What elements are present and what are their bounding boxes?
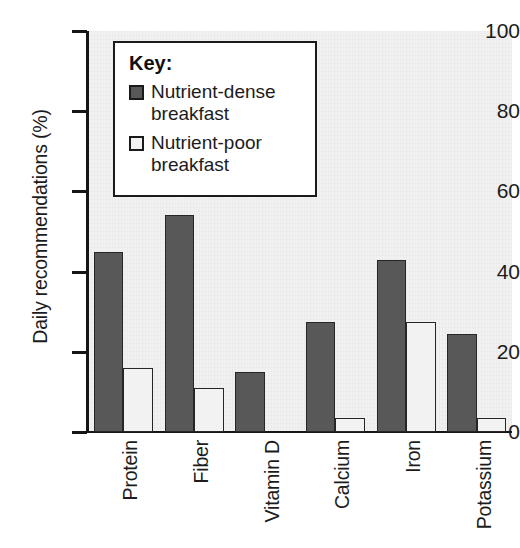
- legend-item-nutrient-dense: Nutrient-dense breakfast: [129, 81, 315, 125]
- bar-chart-figure: Daily recommendations (%) 020406080100 P…: [0, 0, 520, 548]
- y-axis-tick-label: 40: [454, 261, 520, 282]
- bar-nutrient-dense-iron: [377, 260, 407, 432]
- y-axis-tick: [72, 30, 87, 33]
- dark-gray-swatch-icon: [129, 85, 144, 100]
- white-swatch-icon: [129, 136, 144, 151]
- legend-label-line2: breakfast: [151, 103, 229, 124]
- x-axis-label-iron: Iron: [402, 440, 425, 548]
- bar-nutrient-poor-protein: [123, 368, 153, 432]
- y-axis-tick-label: 100: [454, 20, 520, 41]
- x-axis-label-fiber: Fiber: [190, 440, 213, 548]
- x-axis-label-vitamin-d: Vitamin D: [261, 440, 284, 548]
- bar-nutrient-dense-vitamin-d: [235, 372, 265, 432]
- legend-label-line1: Nutrient-poor: [151, 132, 262, 153]
- y-axis-tick-label: 60: [454, 180, 520, 201]
- legend-label-line2: breakfast: [151, 154, 229, 175]
- x-axis-label-protein: Protein: [119, 440, 142, 548]
- x-axis-label-potassium: Potassium: [473, 440, 496, 548]
- y-axis-tick-label: 80: [454, 100, 520, 121]
- legend-item-label: Nutrient-poor breakfast: [151, 132, 262, 176]
- bar-nutrient-poor-potassium: [477, 418, 507, 432]
- bar-nutrient-poor-calcium: [335, 418, 365, 432]
- bar-nutrient-dense-fiber: [165, 215, 195, 432]
- bar-nutrient-poor-fiber: [194, 388, 224, 432]
- bar-nutrient-dense-calcium: [306, 322, 336, 432]
- y-axis-tick: [72, 431, 87, 434]
- bar-nutrient-poor-iron: [406, 322, 436, 432]
- x-axis-label-calcium: Calcium: [331, 440, 354, 548]
- y-axis-tick: [72, 351, 87, 354]
- legend-item-label: Nutrient-dense breakfast: [151, 81, 276, 125]
- y-axis-tick: [72, 271, 87, 274]
- y-axis-tick: [72, 110, 87, 113]
- bar-nutrient-dense-protein: [94, 252, 124, 432]
- y-axis-title: Daily recommendations (%): [29, 17, 52, 437]
- legend-title: Key:: [129, 52, 315, 74]
- bar-nutrient-dense-potassium: [447, 334, 477, 432]
- legend-box: Key: Nutrient-dense breakfast Nutrient-p…: [113, 41, 317, 197]
- legend-label-line1: Nutrient-dense: [151, 81, 276, 102]
- y-axis-line: [86, 31, 89, 433]
- legend-item-nutrient-poor: Nutrient-poor breakfast: [129, 132, 315, 176]
- y-axis-tick: [72, 190, 87, 193]
